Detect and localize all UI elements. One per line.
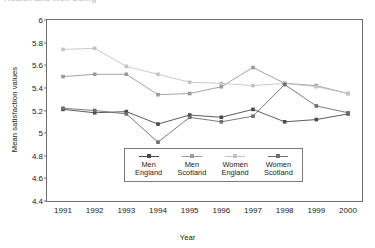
legend-item-label: Men England: [135, 161, 162, 178]
series-point-marker: [251, 84, 255, 88]
series-point-marker: [125, 65, 129, 69]
y-axis-tick-label: 5.6: [32, 61, 43, 70]
y-axis-tick-mark: [44, 87, 47, 88]
series-point-marker: [315, 104, 319, 108]
x-axis-tick-label: 1997: [244, 206, 262, 215]
series-women-england: [61, 46, 350, 95]
y-axis-tick-label: 5.4: [32, 83, 43, 92]
legend-item-label: Women Scotland: [264, 161, 293, 178]
y-axis-tick-mark: [44, 178, 47, 179]
y-axis-tick-mark: [44, 65, 47, 66]
legend-marker-icon: [139, 153, 159, 160]
series-point-marker: [251, 108, 255, 112]
legend-item-men-england[interactable]: Men England: [127, 153, 170, 178]
y-axis-tick-mark: [44, 201, 47, 202]
series-point-marker: [346, 92, 350, 96]
series-point-marker: [220, 85, 224, 89]
series-point-marker: [125, 73, 129, 77]
y-axis-tick-mark: [44, 133, 47, 134]
legend-item-men-scotland[interactable]: Men Scotland: [170, 153, 213, 178]
series-point-marker: [251, 114, 255, 118]
series-line: [63, 48, 348, 93]
x-axis-tick-label: 1993: [117, 206, 135, 215]
series-point-marker: [220, 115, 224, 119]
y-axis-tick-label: 5: [39, 129, 43, 138]
legend-item-women-scotland[interactable]: Women Scotland: [257, 153, 300, 178]
series-point-marker: [346, 111, 350, 115]
series-point-marker: [220, 120, 224, 124]
series-point-marker: [93, 46, 97, 50]
legend-marker-icon: [268, 153, 288, 160]
series-point-marker: [61, 75, 65, 79]
series-point-marker: [156, 73, 160, 77]
series-point-marker: [156, 140, 160, 144]
series-point-marker: [315, 85, 319, 89]
series-men-scotland: [61, 66, 350, 97]
series-point-marker: [188, 92, 192, 96]
series-point-marker: [220, 82, 224, 86]
series-point-marker: [156, 122, 160, 126]
series-line: [63, 84, 348, 142]
y-axis-tick-mark: [44, 42, 47, 43]
x-axis-title: Year: [0, 233, 375, 242]
x-axis-tick-label: 1994: [149, 206, 167, 215]
chart-legend: Men EnglandMen ScotlandWomen EnglandWome…: [124, 148, 303, 182]
series-point-marker: [156, 93, 160, 97]
series-point-marker: [93, 73, 97, 77]
x-axis-tick-label: 1999: [307, 206, 325, 215]
legend-item-label: Women England: [222, 161, 249, 178]
series-point-marker: [251, 66, 255, 70]
x-axis-tick-label: 1992: [86, 206, 104, 215]
legend-marker-icon: [225, 153, 245, 160]
y-axis-tick-label: 6: [39, 16, 43, 25]
series-point-marker: [61, 48, 65, 52]
legend-item-label: Men Scotland: [177, 161, 206, 178]
y-axis-tick-label: 4.6: [32, 174, 43, 183]
series-point-marker: [283, 120, 287, 124]
legend-marker-icon: [182, 153, 202, 160]
x-axis-tick-label: 1996: [212, 206, 230, 215]
y-axis-tick-mark: [44, 20, 47, 21]
y-axis-tick-label: 4.8: [32, 151, 43, 160]
y-axis-tick-mark: [44, 110, 47, 111]
y-axis-tick-mark: [44, 155, 47, 156]
series-men-england: [61, 108, 350, 126]
x-axis-tick-label: 1995: [181, 206, 199, 215]
series-point-marker: [188, 115, 192, 119]
y-axis-tick-label: 5.2: [32, 106, 43, 115]
line-chart-figure: Mean satisfaction values 4.44.64.855.25.…: [0, 0, 375, 248]
series-women-scotland: [61, 83, 350, 144]
x-axis-tick-label: 1998: [276, 206, 294, 215]
y-axis-tick-label: 5.8: [32, 38, 43, 47]
series-point-marker: [315, 118, 319, 122]
series-point-marker: [283, 83, 287, 87]
series-point-marker: [188, 80, 192, 84]
legend-item-women-england[interactable]: Women England: [214, 153, 257, 178]
series-point-marker: [93, 109, 97, 113]
y-axis-title: Mean satisfaction values: [10, 40, 19, 180]
x-axis-tick-label: 1991: [54, 206, 72, 215]
series-point-marker: [125, 112, 129, 116]
series-line: [63, 68, 348, 95]
x-axis-tick-label: 2000: [339, 206, 357, 215]
y-axis-tick-label: 4.4: [32, 197, 43, 206]
series-point-marker: [61, 106, 65, 110]
